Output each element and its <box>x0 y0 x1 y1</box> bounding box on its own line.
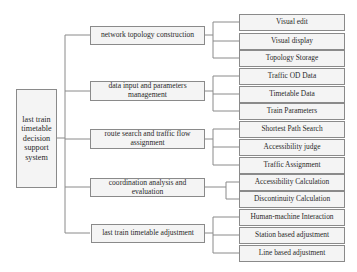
leaf-discontinuity-calculation: Discontinuity Calculation <box>239 191 345 208</box>
leaf-label: Accessibility judge <box>264 143 321 152</box>
module-label: coordination analysis and evaluation <box>98 179 198 196</box>
leaf-traffic-od-data: Traffic OD Data <box>239 68 345 85</box>
module-label: last train timetable adjustment <box>102 229 194 238</box>
leaf-line-based-adjustment: Line based adjustment <box>239 245 345 262</box>
module-data-input: data input and parameters management <box>90 81 205 101</box>
leaf-label: Shortest Path Search <box>261 125 322 134</box>
leaf-shortest-path-search: Shortest Path Search <box>239 121 345 138</box>
leaf-label: Visual edit <box>276 18 308 27</box>
leaf-label: Line based adjustment <box>259 249 326 258</box>
leaf-topology-storage: Topology Storage <box>239 50 345 67</box>
module-route-search: route search and traffic flow assignment <box>90 129 205 149</box>
leaf-label: Discontinuity Calculation <box>254 195 330 204</box>
leaf-label: Human-machine Interaction <box>250 213 333 222</box>
leaf-label: Visual display <box>271 37 313 46</box>
root-node: last train timetable decision support sy… <box>16 89 57 188</box>
module-label: data input and parameters management <box>103 82 193 99</box>
leaf-visual-display: Visual display <box>239 33 345 50</box>
leaf-label: Traffic Assignment <box>264 161 321 170</box>
module-label: route search and traffic flow assignment <box>103 130 193 147</box>
module-timetable-adjustment: last train timetable adjustment <box>91 224 205 243</box>
root-label: last train timetable decision support sy… <box>19 115 54 162</box>
leaf-station-based-adjustment: Station based adjustment <box>239 227 345 244</box>
leaf-train-parameters: Train Parameters <box>239 103 345 120</box>
leaf-accessibility-calculation: Accessibility Calculation <box>239 174 345 191</box>
leaf-label: Topology Storage <box>266 54 319 63</box>
leaf-traffic-assignment: Traffic Assignment <box>239 157 345 174</box>
leaf-timetable-data: Timetable Data <box>239 86 345 103</box>
leaf-label: Traffic OD Data <box>268 72 316 81</box>
leaf-visual-edit: Visual edit <box>239 14 345 31</box>
module-coordination-analysis: coordination analysis and evaluation <box>90 178 205 197</box>
leaf-accessibility-judge: Accessibility judge <box>239 139 345 156</box>
leaf-label: Train Parameters <box>267 107 317 116</box>
leaf-human-machine-interaction: Human-machine Interaction <box>239 209 345 226</box>
leaf-label: Accessibility Calculation <box>255 178 330 187</box>
leaf-label: Station based adjustment <box>255 231 329 240</box>
module-network-topology: network topology construction <box>90 26 205 45</box>
module-label: network topology construction <box>101 31 194 40</box>
leaf-label: Timetable Data <box>269 90 315 99</box>
